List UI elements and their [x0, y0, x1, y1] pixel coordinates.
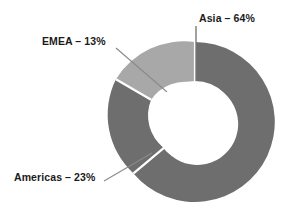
slice-label-asia: Asia – 64% — [199, 13, 255, 25]
donut-chart-figure: Asia – 64% EMEA – 13% Americas – 23% — [0, 0, 295, 216]
donut-chart-svg — [0, 0, 295, 216]
slice-label-emea: EMEA – 13% — [42, 36, 106, 48]
donut-hole — [154, 81, 236, 163]
slice-label-americas: Americas – 23% — [14, 172, 95, 184]
